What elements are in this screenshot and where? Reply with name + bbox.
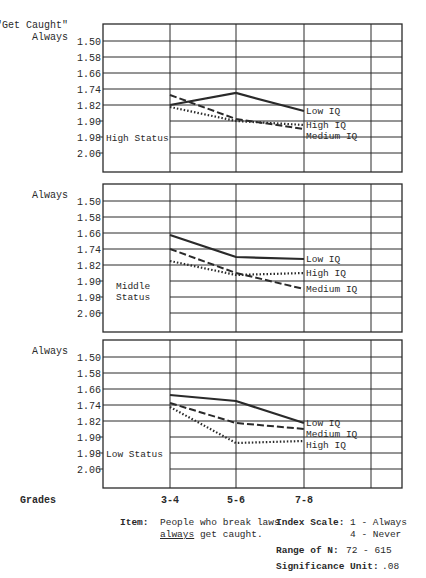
y-tick-label: 1.50 bbox=[77, 353, 101, 364]
y-tick-label: 1.98 bbox=[77, 133, 101, 144]
always-label: Always bbox=[32, 346, 68, 357]
y-tick-label: 1.58 bbox=[77, 213, 101, 224]
y-tick-label: 1.82 bbox=[77, 417, 101, 428]
y-tick-label: 1.74 bbox=[77, 401, 101, 412]
y-tick-label: 1.90 bbox=[77, 117, 101, 128]
status-label: Middle bbox=[116, 281, 151, 292]
y-tick-label: 1.58 bbox=[77, 53, 101, 64]
y-tick-label: 1.58 bbox=[77, 369, 101, 380]
y-tick-label: 1.66 bbox=[77, 229, 101, 240]
series-end-label: High IQ bbox=[306, 120, 346, 131]
range-value: 72 - 615 bbox=[346, 545, 392, 557]
series-end-label: Medium IQ bbox=[306, 429, 358, 440]
range-label: Range of N: bbox=[276, 545, 339, 557]
series-end-label: Medium IQ bbox=[306, 131, 358, 142]
index-scale-1: 1 - Always bbox=[350, 517, 407, 529]
x-axis-title: Grades bbox=[20, 495, 56, 506]
always-label: Always bbox=[32, 32, 68, 43]
series-medium-iq bbox=[170, 95, 304, 129]
x-tick-label: 7-8 bbox=[295, 495, 313, 506]
item-text-line2: always get caught. bbox=[160, 529, 263, 541]
y-tick-label: 1.66 bbox=[77, 69, 101, 80]
x-tick-label: 5-6 bbox=[227, 495, 245, 506]
chart-title: "Get Caught" bbox=[0, 20, 68, 31]
y-tick-label: 1.50 bbox=[77, 37, 101, 48]
x-tick-label: 3-4 bbox=[161, 495, 179, 506]
y-tick-label: 1.98 bbox=[77, 293, 101, 304]
y-tick-label: 1.50 bbox=[77, 197, 101, 208]
y-tick-label: 1.74 bbox=[77, 85, 101, 96]
y-tick-label: 2.06 bbox=[77, 309, 101, 320]
significance-value: .08 bbox=[382, 561, 399, 573]
index-scale-label: Index Scale: bbox=[276, 517, 344, 529]
series-end-label: High IQ bbox=[306, 268, 346, 279]
y-tick-label: 2.06 bbox=[77, 149, 101, 160]
always-label: Always bbox=[32, 190, 68, 201]
series-high-iq bbox=[170, 107, 304, 125]
series-high-iq bbox=[170, 407, 304, 443]
y-tick-label: 1.98 bbox=[77, 449, 101, 460]
panel-frame bbox=[103, 340, 402, 488]
series-end-label: Low IQ bbox=[306, 254, 341, 265]
series-end-label: Medium IQ bbox=[306, 284, 358, 295]
status-label: Status bbox=[116, 292, 150, 303]
index-scale-4: 4 - Never bbox=[350, 529, 401, 541]
series-medium-iq bbox=[170, 249, 304, 289]
y-tick-label: 1.82 bbox=[77, 101, 101, 112]
item-text-line1: People who break laws bbox=[160, 517, 280, 529]
y-tick-label: 1.74 bbox=[77, 245, 101, 256]
item-label: Item: bbox=[120, 517, 149, 529]
item-emphasis: always bbox=[160, 529, 194, 540]
line-chart-panels: 1.501.581.661.741.821.901.982.06Always"G… bbox=[0, 0, 426, 578]
y-tick-label: 1.82 bbox=[77, 261, 101, 272]
y-tick-label: 1.90 bbox=[77, 277, 101, 288]
status-label: High Status bbox=[106, 133, 169, 144]
series-end-label: High IQ bbox=[306, 440, 346, 451]
item-text-rest: get caught. bbox=[194, 529, 262, 540]
y-tick-label: 2.06 bbox=[77, 465, 101, 476]
series-end-label: Low IQ bbox=[306, 106, 341, 117]
series-end-label: Low IQ bbox=[306, 418, 341, 429]
y-tick-label: 1.66 bbox=[77, 385, 101, 396]
y-tick-label: 1.90 bbox=[77, 433, 101, 444]
status-label: Low Status bbox=[106, 449, 163, 460]
significance-label: Significance Unit: bbox=[276, 561, 379, 573]
